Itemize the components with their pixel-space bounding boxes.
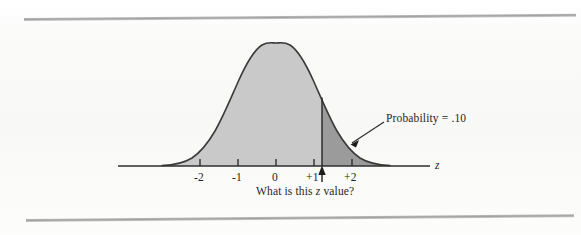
tick-label-plus-1: +1 — [306, 172, 319, 184]
curve-fill-body — [162, 43, 390, 166]
normal-distribution-chart — [0, 0, 581, 235]
unknown-z-arrowhead — [318, 166, 325, 176]
tick-label-zero: 0 — [272, 172, 278, 184]
tick-label-minus-2: -2 — [194, 172, 204, 184]
caption-text-before: What is this — [256, 185, 316, 197]
tick-label-plus-2: +2 — [344, 172, 357, 184]
probability-callout-label: Probability = .10 — [386, 113, 466, 125]
tick-label-minus-1: -1 — [232, 172, 242, 184]
caption-text-after: value? — [320, 185, 354, 197]
unknown-z-caption: What is this z value? — [256, 186, 354, 198]
figure-container: -2 -1 0 +1 +2 z Probability = .10 What i… — [0, 0, 581, 235]
x-axis-label: z — [435, 160, 439, 172]
probability-leader-line — [352, 122, 384, 143]
